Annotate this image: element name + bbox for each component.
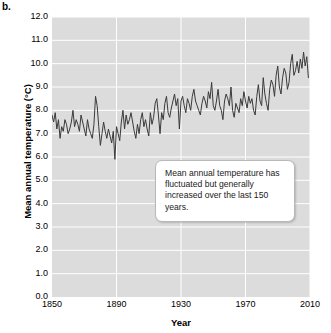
y-axis-tick: 5.0	[8, 175, 48, 184]
chart-svg	[52, 17, 310, 297]
x-axis-label: Year	[52, 317, 310, 328]
y-axis-tick: 6.0	[8, 152, 48, 161]
y-axis-tick: 9.0	[8, 82, 48, 91]
x-axis-tick: 1850	[22, 299, 82, 309]
x-axis-tick: 1930	[151, 299, 211, 309]
y-axis-tick: 10.0	[8, 59, 48, 68]
y-axis-tick: 7.0	[8, 129, 48, 138]
y-axis-tick: 4.0	[8, 199, 48, 208]
y-axis-tick: 11.0	[8, 35, 48, 44]
y-axis-tick: 12.0	[8, 12, 48, 21]
plot-area	[52, 17, 310, 297]
y-axis-tick: 1.0	[8, 269, 48, 278]
x-axis-tick: 1890	[87, 299, 147, 309]
panel-label: b.	[2, 1, 11, 12]
x-axis-tick: 1970	[216, 299, 276, 309]
gridlines	[52, 17, 310, 297]
x-axis-tick: 2010	[280, 299, 331, 309]
y-axis-tick: 3.0	[8, 222, 48, 231]
y-axis-tick: 2.0	[8, 245, 48, 254]
annotation-text: Mean annual temperature has fluctuated b…	[165, 168, 280, 212]
temperature-line	[52, 52, 308, 159]
annotation-callout: Mean annual temperature has fluctuated b…	[155, 160, 295, 222]
y-axis-tick: 8.0	[8, 105, 48, 114]
